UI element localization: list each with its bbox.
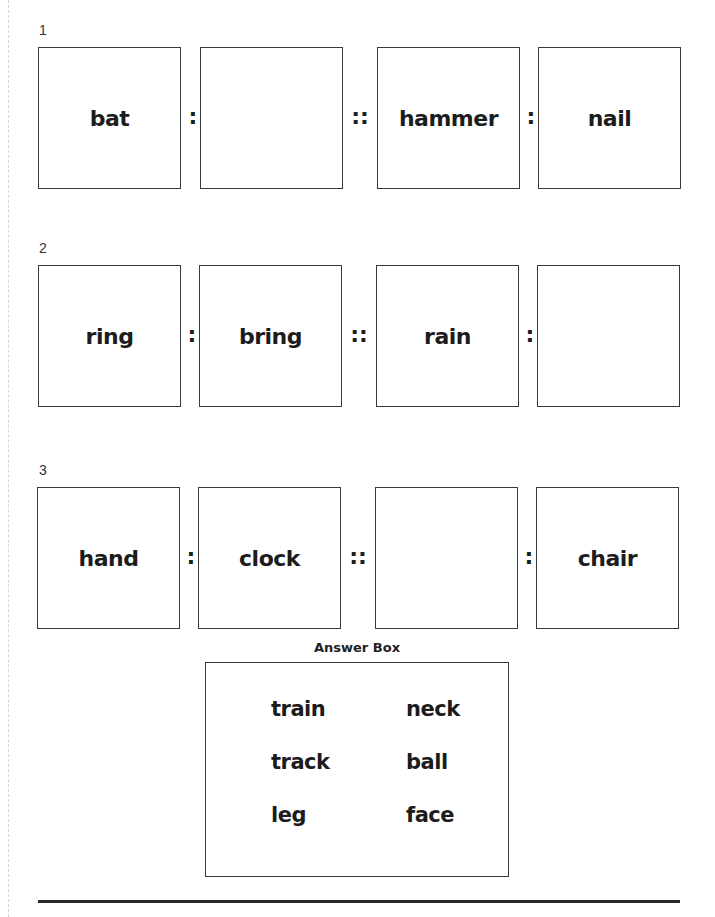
q1-term-4: nail <box>538 47 681 189</box>
answer-box: train neck track ball leg face <box>205 662 509 877</box>
q3-answer-blank[interactable] <box>375 487 518 629</box>
question-3-number: 3 <box>39 462 47 478</box>
answer-word-track[interactable]: track <box>271 750 329 774</box>
question-2-number: 2 <box>39 240 47 256</box>
q2-answer-blank[interactable] <box>537 265 680 407</box>
q3-term-1: hand <box>37 487 180 629</box>
q2-term-3: rain <box>376 265 519 407</box>
question-1-number: 1 <box>39 22 47 38</box>
margin-dashed-line <box>8 0 9 917</box>
answer-box-title: Answer Box <box>205 640 509 655</box>
q3-separator-2: :: <box>349 544 367 569</box>
answer-word-leg[interactable]: leg <box>271 803 306 827</box>
answer-word-ball[interactable]: ball <box>406 750 448 774</box>
answer-word-face[interactable]: face <box>406 803 454 827</box>
q2-separator-2: :: <box>350 322 368 347</box>
answer-word-neck[interactable]: neck <box>406 697 460 721</box>
q2-term-2: bring <box>199 265 342 407</box>
answer-word-train[interactable]: train <box>271 697 325 721</box>
q1-term-3: hammer <box>377 47 520 189</box>
q3-term-4: chair <box>536 487 679 629</box>
q2-term-1: ring <box>38 265 181 407</box>
q1-separator-2: :: <box>351 104 369 129</box>
q1-answer-blank[interactable] <box>200 47 343 189</box>
bottom-divider <box>38 900 680 903</box>
q3-term-2: clock <box>198 487 341 629</box>
q1-term-1: bat <box>38 47 181 189</box>
